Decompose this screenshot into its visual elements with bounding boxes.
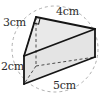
geometry-figure: 3cm 2cm 4cm 5cm [0,0,105,98]
dimension-label-4cm: 4cm [56,6,79,17]
dimension-label-3cm: 3cm [3,17,26,28]
dimension-label-5cm: 5cm [53,80,76,91]
dimension-label-2cm: 2cm [1,61,24,72]
